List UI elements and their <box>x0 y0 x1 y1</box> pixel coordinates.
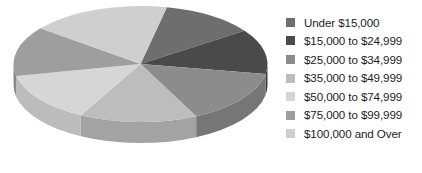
legend-swatch-icon <box>286 18 295 27</box>
legend-item-label: $50,000 to $74,999 <box>304 91 402 103</box>
legend-item-under-15000[interactable]: Under $15,000 <box>286 13 422 32</box>
legend-item-75000-99999[interactable]: $75,000 to $99,999 <box>286 106 422 125</box>
legend-swatch-icon <box>286 55 295 64</box>
legend-item-label: $25,000 to $34,999 <box>304 54 402 66</box>
legend-item-15000-24999[interactable]: $15,000 to $24,999 <box>286 32 422 51</box>
legend-swatch-icon <box>286 74 295 83</box>
legend-item-35000-49999[interactable]: $35,000 to $49,999 <box>286 69 422 88</box>
legend-swatch-icon <box>286 36 295 45</box>
legend-item-50000-74999[interactable]: $50,000 to $74,999 <box>286 87 422 106</box>
legend-swatch-icon <box>286 111 295 120</box>
legend-swatch-icon <box>286 129 295 138</box>
pie-chart-svg <box>0 0 278 173</box>
legend-item-label: Under $15,000 <box>304 17 379 29</box>
legend-item-label: $35,000 to $49,999 <box>304 72 402 84</box>
pie-chart-graphic <box>0 0 278 173</box>
legend-swatch-icon <box>286 92 295 101</box>
chart-legend: Under $15,000 $15,000 to $24,999 $25,000… <box>286 13 422 143</box>
pie-chart-figure: Under $15,000 $15,000 to $24,999 $25,000… <box>0 0 422 173</box>
legend-item-25000-34999[interactable]: $25,000 to $34,999 <box>286 50 422 69</box>
legend-item-label: $15,000 to $24,999 <box>304 35 402 47</box>
legend-item-label: $75,000 to $99,999 <box>304 109 402 121</box>
pie-top-slices <box>14 6 268 122</box>
legend-item-label: $100,000 and Over <box>304 128 402 140</box>
legend-item-100000-and-over[interactable]: $100,000 and Over <box>286 125 422 144</box>
